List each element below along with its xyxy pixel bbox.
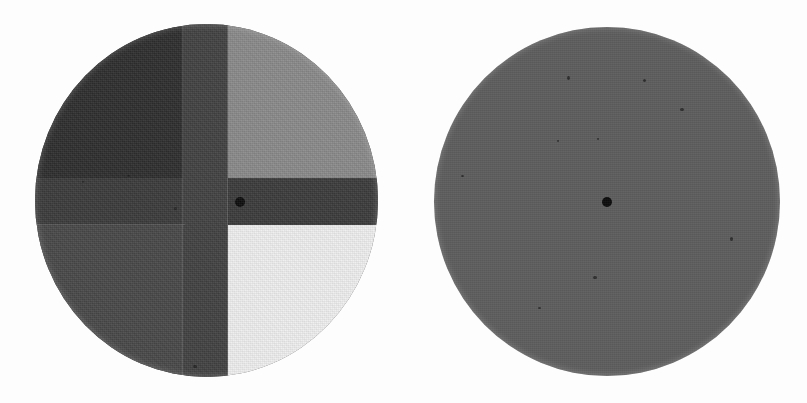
uniform-disc: [434, 27, 780, 376]
quadrant-disc: [35, 24, 378, 377]
dust-speck: [680, 108, 684, 111]
dust-speck: [461, 175, 464, 177]
seam-line-vertical-left: [182, 24, 183, 377]
seam-line-horizontal: [35, 224, 185, 225]
quadrant-top-left: [35, 24, 183, 178]
quadrant-bottom-right: [228, 225, 378, 377]
dust-speck: [593, 276, 597, 279]
faint-mark: [280, 144, 289, 148]
dust-speck: [567, 76, 570, 80]
quadrant-top-right: [228, 24, 378, 178]
cross-arm-vertical: [183, 24, 228, 377]
dust-speck: [730, 237, 733, 241]
dust-speck: [193, 365, 197, 368]
dust-speck: [127, 175, 130, 177]
center-dot: [235, 197, 245, 207]
dust-speck: [557, 140, 559, 142]
center-dot: [602, 197, 612, 207]
dust-speck: [643, 79, 646, 82]
image-canvas: [0, 0, 807, 403]
seam-line-vertical-right: [227, 24, 228, 377]
dust-speck: [597, 138, 599, 140]
dust-speck: [82, 181, 84, 183]
quadrant-bottom-left: [35, 225, 183, 377]
dust-speck: [538, 307, 541, 309]
dust-speck: [174, 207, 177, 210]
